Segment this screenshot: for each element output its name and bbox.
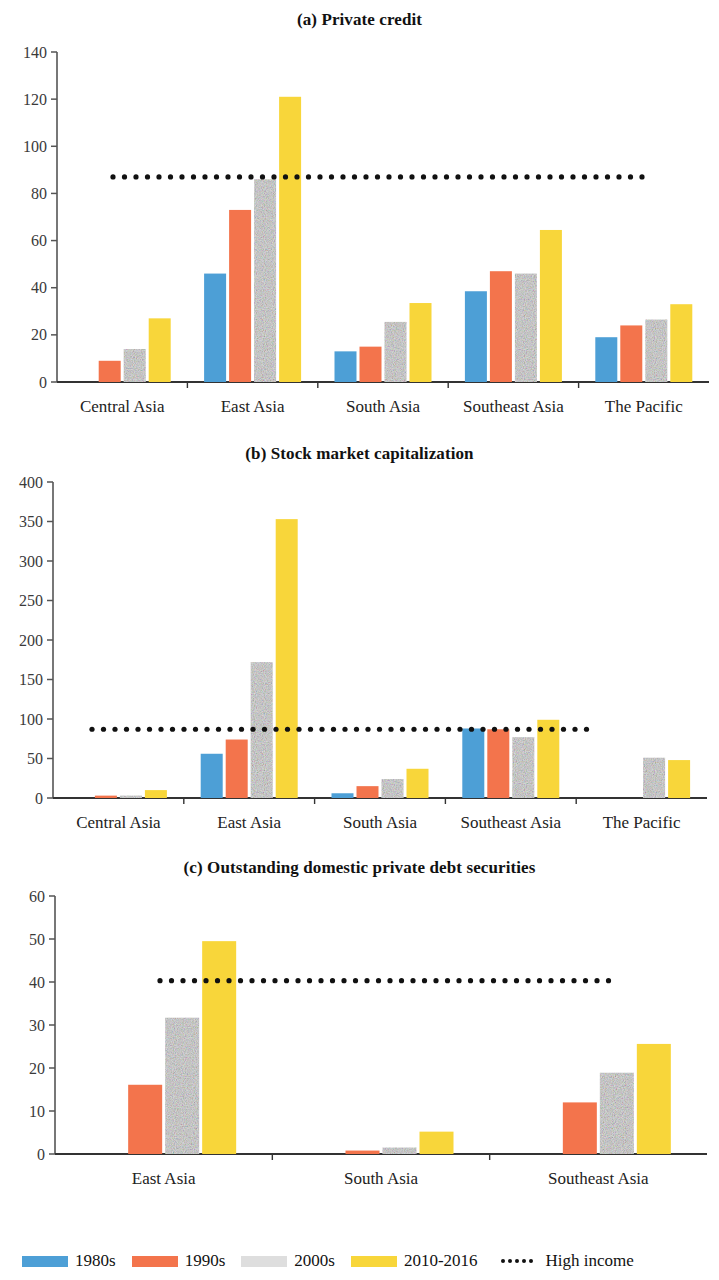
yellow-swatch-icon [351,1256,397,1267]
bar-2000s [120,796,142,798]
y-tick-label: 60 [29,888,45,905]
bar-1980s [201,754,223,798]
bar-1990s [360,347,382,382]
y-tick-label: 30 [29,1017,45,1034]
y-tick-label: 0 [35,790,43,807]
x-category-label: Central Asia [80,397,165,416]
y-tick-label: 0 [37,1146,45,1163]
bar-1990s [226,740,248,798]
bar-1990s [620,325,642,382]
y-tick-label: 120 [23,91,47,108]
x-category-label: East Asia [132,1169,196,1188]
panel-a: (a) Private credit 020406080100120140Cen… [0,0,719,434]
panel-b-svg: 050100150200250300350400Central AsiaEast… [0,468,719,848]
legend-row: 1980s1990s2000s2010-2016High income [0,1246,719,1276]
legend-item-1980s[interactable]: 1980s [22,1251,116,1271]
y-tick-label: 100 [19,711,43,728]
dotted-line-icon [494,1256,540,1267]
bar-2010-2016 [202,941,236,1154]
y-tick-label: 50 [29,931,45,948]
y-tick-label: 50 [27,750,43,767]
bar-1980s [462,728,484,798]
legend-item-2000s[interactable]: 2000s [241,1251,335,1271]
bar-1980s [465,291,487,382]
x-category-label: South Asia [343,813,418,832]
high-income-reference-line [110,174,644,179]
panel-b: (b) Stock market capitalization 05010015… [0,434,719,848]
legend-label: 1980s [75,1251,116,1271]
y-tick-label: 350 [19,513,43,530]
bar-2010-2016 [145,790,167,798]
x-category-label: South Asia [346,397,421,416]
bar-2010-2016 [670,304,692,382]
bar-2000s [124,349,146,382]
bar-2010-2016 [407,769,429,798]
bar-2010-2016 [149,318,171,382]
bar-2000s [645,320,667,382]
bar-2000s [382,779,404,798]
x-category-label: Southeast Asia [548,1169,649,1188]
x-category-label: South Asia [344,1169,419,1188]
y-tick-label: 400 [19,474,43,491]
legend-label: 2000s [294,1251,335,1271]
bar-2000s [165,1018,199,1154]
bar-2010-2016 [410,303,432,382]
bar-2010-2016 [276,519,298,798]
gray-swatch-icon [241,1256,287,1267]
bar-2000s [254,179,276,382]
y-tick-label: 20 [31,326,47,343]
x-category-label: Southeast Asia [461,813,562,832]
bar-2000s [512,737,534,798]
legend-item-1990s[interactable]: 1990s [132,1251,226,1271]
bar-1990s [229,210,251,382]
bar-1990s [346,1151,380,1154]
bar-1980s [335,351,357,382]
legend-item-2010-2016[interactable]: 2010-2016 [351,1251,478,1271]
x-category-label: East Asia [221,397,285,416]
bar-1980s [595,337,617,382]
figure-root: (a) Private credit 020406080100120140Cen… [0,0,719,1280]
bar-1980s [332,793,354,798]
high-income-reference-line [89,727,589,732]
panel-c-title: (c) Outstanding domestic private debt se… [0,848,719,882]
legend-label: 1990s [185,1251,226,1271]
bar-1990s [563,1102,597,1154]
y-tick-label: 250 [19,592,43,609]
y-tick-label: 150 [19,671,43,688]
y-tick-label: 0 [39,374,47,391]
y-tick-label: 60 [31,232,47,249]
y-tick-label: 100 [23,138,47,155]
bar-1990s [128,1085,162,1154]
x-category-label: Southeast Asia [463,397,564,416]
bar-1980s [204,274,226,382]
bar-2010-2016 [637,1044,671,1154]
bar-2010-2016 [668,760,690,798]
x-category-label: The Pacific [603,813,681,832]
y-tick-label: 40 [31,279,47,296]
x-category-label: The Pacific [605,397,683,416]
y-tick-label: 10 [29,1103,45,1120]
bar-2010-2016 [420,1132,454,1154]
y-tick-label: 20 [29,1060,45,1077]
legend-label: High income [546,1251,634,1271]
blue-swatch-icon [22,1256,68,1267]
y-tick-label: 200 [19,632,43,649]
legend-item-high-income[interactable]: High income [494,1251,634,1271]
bar-2010-2016 [540,230,562,382]
bar-1990s [487,729,509,798]
x-category-label: Central Asia [76,813,161,832]
orange-swatch-icon [132,1256,178,1267]
y-tick-label: 140 [23,44,47,61]
bar-2000s [385,322,407,382]
y-tick-label: 300 [19,553,43,570]
panel-c-svg: 0102030405060East AsiaSouth AsiaSoutheas… [0,882,719,1202]
bar-2000s [643,758,665,798]
bar-2000s [383,1148,417,1154]
panel-c-plot: 0102030405060East AsiaSouth AsiaSoutheas… [0,882,719,1202]
chart-legend: 1980s1990s2000s2010-2016High income [0,1246,719,1276]
panel-b-title: (b) Stock market capitalization [0,434,719,468]
bar-2000s [515,274,537,382]
panel-a-plot: 020406080100120140Central AsiaEast AsiaS… [0,34,719,434]
bar-1990s [490,271,512,382]
bar-2000s [600,1073,634,1154]
